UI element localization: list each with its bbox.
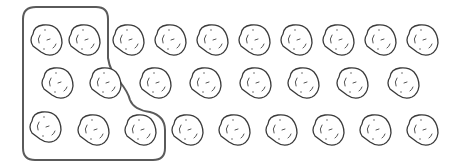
potato (155, 25, 186, 55)
potato-body (113, 25, 144, 55)
potato-body (30, 112, 61, 142)
potato (365, 25, 396, 55)
potato-grouping-diagram (0, 0, 467, 168)
potato (219, 115, 250, 145)
potato (190, 68, 221, 98)
potato-eye-dot (125, 48, 127, 50)
potato-eye-dot (419, 138, 421, 140)
potato-eye-dot (326, 119, 328, 121)
potato-body (323, 25, 354, 55)
potato-eye-dot (232, 119, 234, 121)
potato-body (337, 68, 368, 98)
potato-body (281, 25, 312, 55)
potato-grouped (125, 115, 156, 145)
potato-body (313, 115, 344, 145)
potato-grouped (42, 68, 73, 98)
potato-eye-dot (301, 72, 303, 74)
potato-body (239, 25, 270, 55)
potato (197, 25, 228, 55)
potato-eye-dot (420, 119, 422, 121)
potato-body (140, 68, 171, 98)
potato (239, 25, 270, 55)
potato-body (288, 68, 319, 98)
potato-body (407, 115, 438, 145)
potato-eye-dot (377, 48, 379, 50)
potato-eye-dot (43, 48, 45, 50)
potato-grouped (78, 115, 109, 145)
potato-body (266, 115, 297, 145)
potato (288, 68, 319, 98)
potato (323, 25, 354, 55)
potato-body (42, 68, 73, 98)
potato-eye-dot (55, 72, 57, 74)
potato-eye-dot (350, 72, 352, 74)
potato-body (90, 68, 121, 98)
potato-grouped (30, 112, 61, 142)
potato-eye-dot (152, 91, 154, 93)
potato-eye-dot (210, 29, 212, 31)
potato (266, 115, 297, 145)
potato-body (31, 25, 62, 55)
potato-eye-dot (209, 48, 211, 50)
potato-eye-dot (126, 29, 128, 31)
potato-body (407, 25, 438, 55)
potato-eye-dot (300, 91, 302, 93)
potato-body (388, 68, 419, 98)
potato-eye-dot (294, 29, 296, 31)
potato-body (190, 68, 221, 98)
potato-grouped (31, 25, 62, 55)
potato-eye-dot (419, 48, 421, 50)
potato (281, 25, 312, 55)
potato-body (360, 115, 391, 145)
potato-eye-dot (185, 119, 187, 121)
potato-eye-dot (373, 119, 375, 121)
potato-eye-dot (252, 91, 254, 93)
potato-grouped (69, 25, 100, 55)
potato (360, 115, 391, 145)
potato-eye-dot (420, 29, 422, 31)
potato-eye-dot (336, 29, 338, 31)
potato-eye-dot (349, 91, 351, 93)
potato-body (240, 68, 271, 98)
potato-eye-dot (153, 72, 155, 74)
potato-body (365, 25, 396, 55)
potato-grouped (90, 68, 121, 98)
potato-body (69, 25, 100, 55)
potato-eye-dot (252, 29, 254, 31)
potato-eye-dot (91, 119, 93, 121)
potato-eye-dot (203, 72, 205, 74)
potato-body (219, 115, 250, 145)
potato-eye-dot (54, 91, 56, 93)
diagram-canvas (0, 0, 467, 168)
potato-eye-dot (184, 138, 186, 140)
potato (240, 68, 271, 98)
potato-eye-dot (335, 48, 337, 50)
potato-eye-dot (293, 48, 295, 50)
potato-eye-dot (378, 29, 380, 31)
potato-eye-dot (325, 138, 327, 140)
potato-eye-dot (81, 48, 83, 50)
potato-eye-dot (137, 138, 139, 140)
potato-body (197, 25, 228, 55)
potato-eye-dot (401, 72, 403, 74)
potato-eye-dot (42, 135, 44, 137)
potato-eye-dot (168, 29, 170, 31)
potato-eye-dot (90, 138, 92, 140)
potato-body (78, 115, 109, 145)
potato-eye-dot (400, 91, 402, 93)
potato-body (125, 115, 156, 145)
potato (140, 68, 171, 98)
potato (172, 115, 203, 145)
potato-eye-dot (167, 48, 169, 50)
potato-eye-dot (253, 72, 255, 74)
potato-eye-dot (44, 29, 46, 31)
potato (407, 25, 438, 55)
potato-eye-dot (43, 116, 45, 118)
potato-eye-dot (103, 72, 105, 74)
potato-eye-dot (102, 91, 104, 93)
potato (113, 25, 144, 55)
potatoes-layer (30, 25, 438, 145)
potato-eye-dot (251, 48, 253, 50)
potato-eye-dot (231, 138, 233, 140)
potato-eye-dot (82, 29, 84, 31)
